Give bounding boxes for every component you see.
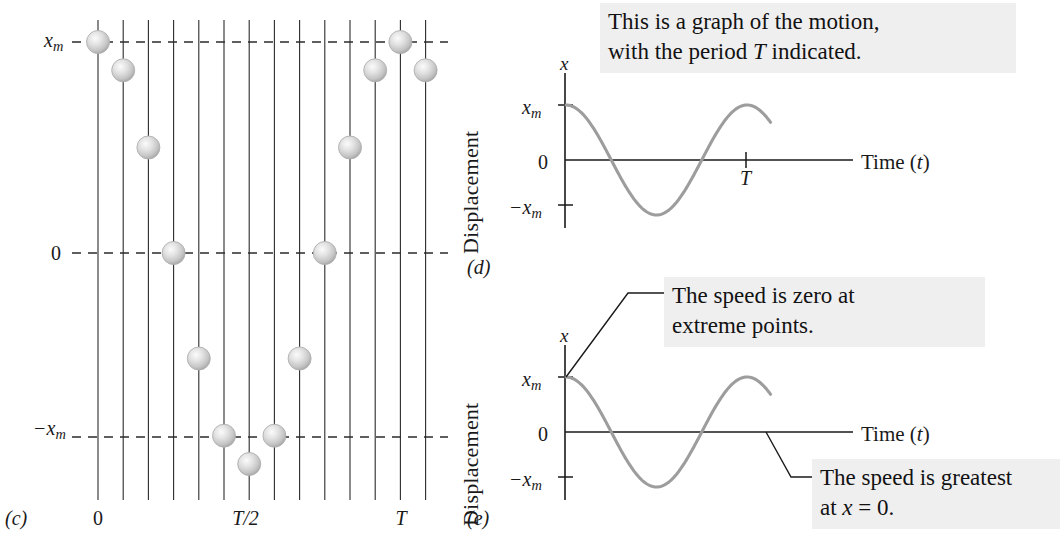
panel-c-ball — [137, 136, 160, 159]
panel-c-ball — [162, 242, 185, 265]
panel-c-ball — [263, 424, 286, 447]
panel-c-ylabel-zero: 0 — [51, 241, 61, 266]
panel-c-dashed-levels — [72, 42, 448, 437]
panel-c-ball — [213, 424, 236, 447]
panel-c-ylabel-neg-xm: −xm — [33, 416, 66, 443]
panel-c-ball — [288, 347, 311, 370]
panel-c-label: (c) — [5, 506, 27, 531]
panel-d-y-axis-symbol: x — [560, 52, 568, 76]
panel-e-y-axis-symbol: x — [560, 324, 568, 348]
panel-c-ball — [112, 59, 135, 82]
panel-d-x-axis-label: Time (t) — [861, 149, 930, 175]
panel-e-leader-bottom — [766, 432, 815, 477]
panel-c-ball — [414, 59, 437, 82]
panel-e-ylabel-xm: xm — [522, 367, 541, 394]
panel-d-label: (d) — [467, 255, 490, 280]
panel-c-ball — [238, 453, 261, 476]
panel-c-xtick-label: T — [395, 506, 406, 531]
panel-e-x-axis-label: Time (t) — [861, 421, 930, 447]
panel-c-ball — [364, 59, 387, 82]
panel-c-ylabel-xm: xm — [44, 28, 63, 55]
panel-e-label: (e) — [467, 506, 489, 531]
panel-d-ylabel-xm: xm — [522, 95, 541, 122]
panel-d-ylabel-neg-xm: −xm — [509, 195, 542, 222]
panel-c-xtick-label: T/2 — [232, 506, 259, 531]
panel-d-y-axis-title: Displacement — [458, 131, 484, 254]
panel-c-ball — [389, 31, 412, 54]
panel-c-ball — [339, 136, 362, 159]
panel-d-caption: This is a graph of the motion, with the … — [600, 3, 1016, 73]
panel-c-ball — [313, 242, 336, 265]
panel-c-ball — [87, 31, 110, 54]
panel-c-xtick-label: 0 — [93, 506, 103, 531]
panel-e-leader-top — [566, 293, 670, 377]
panel-e-ylabel-neg-xm: −xm — [509, 467, 542, 494]
panel-c-vertical-lines — [98, 20, 426, 500]
panel-d-ylabel-zero: 0 — [538, 150, 548, 175]
panel-e-callout-bottom: The speed is greatest at x = 0. — [812, 459, 1060, 529]
panel-e-callout-top: The speed is zero at extreme points. — [664, 277, 985, 347]
panel-c-ball — [187, 347, 210, 370]
panel-d-xtick-label-T: T — [740, 166, 751, 191]
panel-e-ylabel-zero: 0 — [538, 422, 548, 447]
